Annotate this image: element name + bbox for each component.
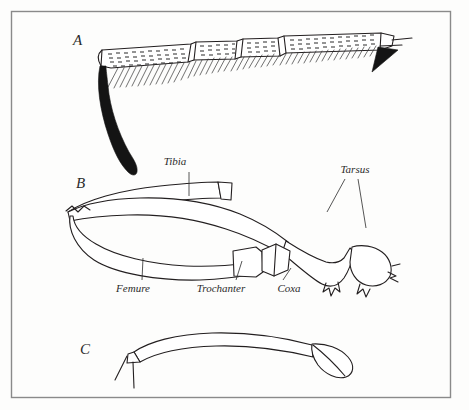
figure-c-seta-2 [133, 362, 134, 388]
figure-b-coxa [262, 244, 290, 276]
label-tarsus: Tarsus [341, 163, 370, 175]
figure-c: C [80, 333, 353, 388]
figure-c-shaft [134, 333, 313, 362]
figure-a-apical-edge [392, 38, 412, 40]
figure-c-seta-1 [115, 356, 127, 380]
label-trochanter: Trochanter [197, 282, 246, 294]
figure-a-letter: A [72, 32, 83, 48]
label-tarsus-group: Tarsus [327, 163, 369, 228]
figure-c-letter: C [80, 341, 91, 357]
figure-b-letter: B [76, 175, 85, 191]
label-tibia: Tibia [164, 155, 187, 167]
label-coxa: Coxa [277, 282, 301, 294]
leader-tarsus-2 [358, 179, 366, 228]
figure-a-spur [98, 66, 137, 175]
figure-a: A [72, 32, 412, 175]
figure-b: B [66, 155, 400, 297]
plate-canvas: A [0, 0, 469, 410]
figure-a-apical-spine [372, 47, 398, 72]
label-femure: Femure [115, 282, 150, 294]
illustration-plate: A [0, 0, 469, 410]
leader-tarsus-1 [327, 179, 345, 212]
figure-b-trochanter [233, 247, 263, 277]
